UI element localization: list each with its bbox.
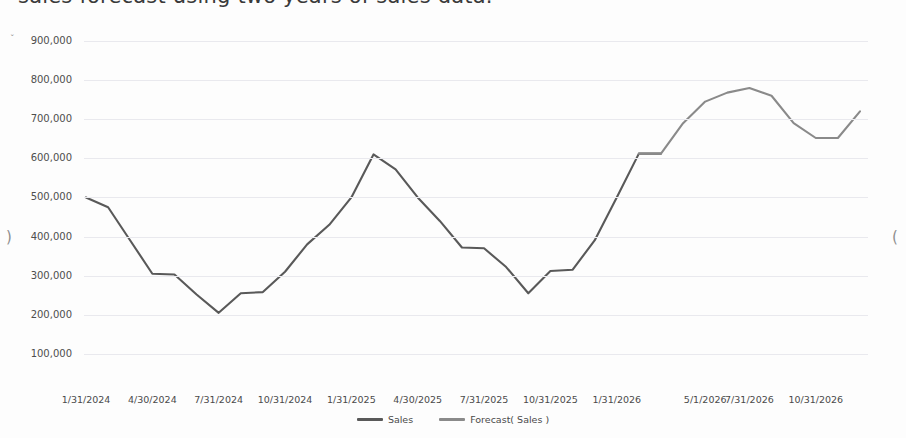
x-axis-tick-label: 4/30/2025 xyxy=(393,394,442,405)
legend-label: Sales xyxy=(388,414,413,425)
sales-forecast-line-chart: 900,000800,000700,000600,000500,000400,0… xyxy=(0,0,906,438)
legend-label: Forecast( Sales ) xyxy=(470,414,549,425)
series-lines xyxy=(84,41,868,393)
x-axis-tick-label: 1/31/2025 xyxy=(327,394,376,405)
gridline xyxy=(84,80,868,81)
x-axis-tick-label: 5/1/2026 xyxy=(684,394,727,405)
scan-artifact-left-paren: ) xyxy=(6,228,12,246)
y-axis-tick-label: 600,000 xyxy=(2,152,72,163)
y-axis-tick-label: 300,000 xyxy=(2,270,72,281)
legend-item[interactable]: Sales xyxy=(357,414,413,425)
y-axis-tick-label: 100,000 xyxy=(2,348,72,359)
y-axis-tick-label: 500,000 xyxy=(2,191,72,202)
y-axis-tick-label: 400,000 xyxy=(2,231,72,242)
legend-swatch-icon xyxy=(357,418,383,421)
gridline xyxy=(84,41,868,42)
screenshot-page: sales forecast using two years of sales … xyxy=(0,0,906,438)
x-axis-tick-label: 10/31/2025 xyxy=(523,394,578,405)
x-axis-tick-label: 1/31/2026 xyxy=(592,394,641,405)
line-series-forecast xyxy=(639,88,860,154)
scan-artifact-right-paren: ( xyxy=(892,228,898,246)
y-axis-tick-label: 700,000 xyxy=(2,113,72,124)
y-axis-labels: 900,000800,000700,000600,000500,000400,0… xyxy=(0,41,78,393)
x-axis-labels: 1/31/20244/30/20247/31/202410/31/20241/3… xyxy=(84,390,868,412)
chart-legend: SalesForecast( Sales ) xyxy=(0,414,906,425)
x-axis-tick-label: 10/31/2026 xyxy=(788,394,843,405)
x-axis-tick-label: 7/31/2024 xyxy=(194,394,243,405)
line-series-sales xyxy=(86,154,661,313)
gridline xyxy=(84,354,868,355)
gridline xyxy=(84,197,868,198)
legend-item[interactable]: Forecast( Sales ) xyxy=(439,414,549,425)
x-axis-tick-label: 7/31/2026 xyxy=(725,394,774,405)
legend-swatch-icon xyxy=(439,418,465,421)
gridline xyxy=(84,119,868,120)
gridline xyxy=(84,276,868,277)
gridline xyxy=(84,158,868,159)
x-axis-tick-label: 7/31/2025 xyxy=(460,394,509,405)
scan-artifact-tick-mark: ˇ xyxy=(10,34,15,44)
x-axis-tick-label: 4/30/2024 xyxy=(128,394,177,405)
x-axis-tick-label: 10/31/2024 xyxy=(258,394,313,405)
x-axis-tick-label: 1/31/2024 xyxy=(62,394,111,405)
y-axis-tick-label: 200,000 xyxy=(2,309,72,320)
gridline xyxy=(84,315,868,316)
gridline xyxy=(84,237,868,238)
plot-area xyxy=(84,41,868,393)
y-axis-tick-label: 800,000 xyxy=(2,74,72,85)
